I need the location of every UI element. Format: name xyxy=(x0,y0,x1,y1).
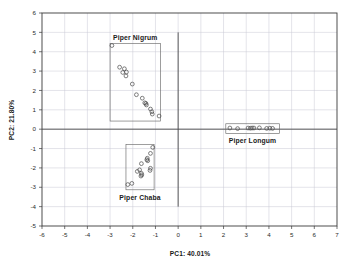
y-tick-label: 4 xyxy=(33,48,37,55)
x-tick-label: 6 xyxy=(313,231,317,238)
x-tick-label: 1 xyxy=(199,231,203,238)
x-axis-title: PC1: 40.01% xyxy=(170,250,210,257)
cluster-label-piper-longum: Piper Longum xyxy=(229,137,277,145)
x-tick-label: 2 xyxy=(222,231,226,238)
x-tick-label: -1 xyxy=(153,231,159,238)
pca-scatter-figure: -6-5-4-3-2-101234567 -5-4-3-2-10123456 P… xyxy=(0,0,354,267)
x-tick-label: 5 xyxy=(290,231,294,238)
y-tick-label: -5 xyxy=(30,222,36,229)
y-tick-label: 2 xyxy=(33,87,37,94)
pca-score-plot: -6-5-4-3-2-101234567 -5-4-3-2-10123456 P… xyxy=(0,0,354,267)
x-tick-label: -5 xyxy=(62,231,68,238)
figure-background xyxy=(0,0,354,267)
x-tick-label: -3 xyxy=(107,231,113,238)
x-tick-label: -2 xyxy=(130,231,136,238)
cluster-label-piper-nigrum: Piper Nigrum xyxy=(113,34,157,42)
y-tick-label: 6 xyxy=(33,9,37,16)
x-tick-label: 4 xyxy=(267,231,271,238)
x-tick-label: -4 xyxy=(85,231,91,238)
x-tick-label: 3 xyxy=(245,231,249,238)
y-tick-label: -4 xyxy=(30,203,36,210)
y-tick-label: 0 xyxy=(33,125,37,132)
y-axis-title: PC2: 21.80% xyxy=(8,100,15,140)
y-tick-label: -2 xyxy=(30,164,36,171)
y-tick-label: -1 xyxy=(30,145,36,152)
x-tick-label: 0 xyxy=(176,231,180,238)
cluster-label-piper-chaba: Piper Chaba xyxy=(119,194,160,202)
x-tick-label: -6 xyxy=(39,231,45,238)
y-tick-label: 3 xyxy=(33,67,37,74)
x-tick-label: 7 xyxy=(335,231,339,238)
y-tick-label: -3 xyxy=(30,183,36,190)
y-tick-label: 1 xyxy=(33,106,37,113)
y-tick-label: 5 xyxy=(33,29,37,36)
